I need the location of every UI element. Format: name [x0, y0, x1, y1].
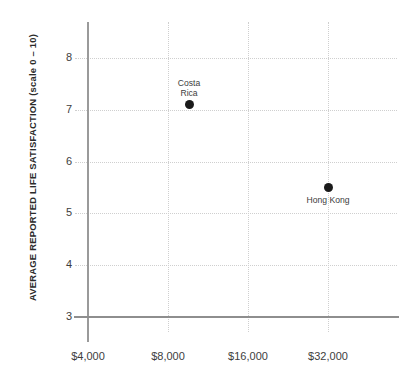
gridline-horizontal — [75, 110, 397, 111]
data-point-label: Costa Rica — [149, 78, 229, 98]
gridline-horizontal — [75, 213, 397, 214]
plot-area: 876543 $4,000$8,000$16,000$32,000 Costa … — [0, 0, 415, 385]
y-axis-tick-label: 4 — [50, 259, 72, 270]
gridline-horizontal — [75, 162, 397, 163]
y-axis-tick-label: 6 — [50, 156, 72, 167]
x-axis-tick-label: $16,000 — [203, 350, 293, 362]
scatter-chart: AVERAGE REPORTED LIFE SATISFACTION (scal… — [0, 0, 415, 385]
y-axis-tick-label: 3 — [50, 311, 72, 322]
y-axis-tick-label: 7 — [50, 104, 72, 115]
x-axis-tick-label: $32,000 — [283, 350, 373, 362]
gridline-vertical — [248, 22, 249, 332]
y-axis-tick-label: 5 — [50, 207, 72, 218]
gridline-vertical — [328, 22, 329, 332]
x-axis-baseline — [74, 316, 399, 318]
gridline-horizontal — [75, 58, 397, 59]
gridline-vertical — [168, 22, 169, 332]
x-axis-tick-label: $8,000 — [123, 350, 213, 362]
x-axis-tick-label: $4,000 — [43, 350, 133, 362]
data-point[interactable] — [324, 183, 333, 192]
y-axis-line — [87, 22, 89, 342]
y-axis-tick-label: 8 — [50, 52, 72, 63]
data-point-label: Hong Kong — [288, 195, 368, 205]
gridline-horizontal — [75, 265, 397, 266]
data-point[interactable] — [185, 100, 194, 109]
